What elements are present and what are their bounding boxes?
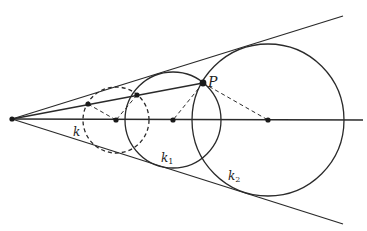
lower-ray <box>12 119 343 224</box>
point-b <box>134 92 139 97</box>
label-k1: k1 <box>161 151 173 166</box>
point-center-k1 <box>170 117 175 122</box>
upper-ray <box>12 16 343 119</box>
label-k2-base: k <box>228 169 235 183</box>
label-k2: k2 <box>228 169 240 184</box>
label-k: k <box>73 125 80 139</box>
radius-k1-p <box>173 83 203 120</box>
point-center-k <box>113 117 118 122</box>
point-vertex <box>9 116 14 121</box>
label-k1-sub: 1 <box>168 157 173 166</box>
radius-k-a <box>88 104 116 120</box>
geometry-diagram: P k k1 k2 <box>0 0 367 231</box>
label-k1-base: k <box>161 151 168 165</box>
point-p <box>200 80 207 87</box>
point-center-k2 <box>265 117 270 122</box>
point-a <box>85 101 90 106</box>
label-p: P <box>207 74 218 90</box>
bisector <box>12 119 363 120</box>
secant-through-p <box>12 83 203 119</box>
label-k2-sub: 2 <box>235 175 240 184</box>
